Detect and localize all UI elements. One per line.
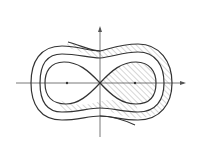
focus-left: [66, 82, 68, 84]
cassini-diagram: [0, 0, 200, 152]
diagram-canvas: [0, 0, 200, 152]
x-axis-arrow-icon: [180, 81, 186, 85]
focus-right: [134, 82, 136, 84]
y-axis-arrow-icon: [98, 26, 102, 32]
